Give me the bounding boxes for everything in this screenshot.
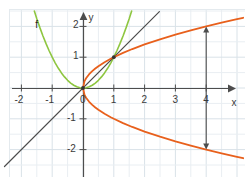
y-tick-label--1: -1: [67, 113, 76, 123]
x-tick-label-0: 0: [80, 95, 86, 105]
x-tick-label-3: 3: [172, 95, 178, 105]
graph-figure: -2-101234-2-112fxy: [0, 0, 245, 177]
marker-intersection-origin: [81, 86, 85, 90]
y-tick-label-1: 1: [73, 51, 79, 61]
x-axis-name: x: [231, 98, 236, 108]
y-tick-label--2: -2: [67, 144, 76, 154]
marker-intersection-one-one: [112, 55, 116, 59]
x-tick-label-2: 2: [142, 95, 148, 105]
function-label-f: f: [35, 20, 38, 30]
x-tick-label-4: 4: [203, 95, 209, 105]
y-axis-name: y: [89, 13, 94, 23]
x-tick-label--1: -1: [45, 95, 54, 105]
y-tick-label-2: 2: [73, 20, 79, 30]
x-tick-label--2: -2: [14, 95, 23, 105]
x-tick-label-1: 1: [111, 95, 117, 105]
